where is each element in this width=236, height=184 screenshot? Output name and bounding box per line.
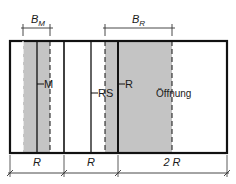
label-m: M [44, 78, 53, 90]
diagram-canvas: M RS R Öffnung BM BR R R 2 R [0, 0, 236, 184]
dim-label-bm: BM [31, 13, 45, 28]
label-r: R [125, 78, 133, 90]
label-opening: Öffnung [156, 88, 191, 99]
dim-label-br: BR [132, 13, 145, 28]
dim-label-bottom-2: 2 R [162, 156, 180, 168]
dim-label-br-sub: R [139, 19, 145, 28]
dim-label-bm-main: B [31, 13, 38, 25]
dim-label-bm-sub: M [38, 19, 45, 28]
label-rs: RS [98, 87, 113, 99]
dim-label-bottom-0: R [33, 156, 41, 168]
dim-label-bottom-1: R [87, 156, 95, 168]
dim-label-br-main: B [132, 13, 139, 25]
